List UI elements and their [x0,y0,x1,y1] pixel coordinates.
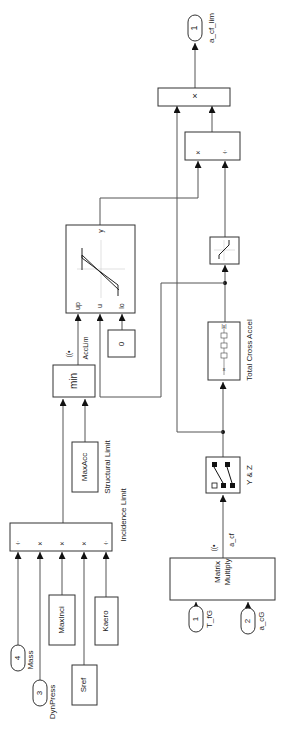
multiply-icon: × [82,539,87,548]
incidence-limit-label: Incidence Limit [119,488,128,542]
saturation-block[interactable] [210,237,239,264]
multiply-icon: × [192,91,197,101]
port-lo-label: lo [118,303,125,309]
incidence-limit-block[interactable]: ÷ × × × ÷ Incidence Limit [10,488,128,551]
inport-label: a_cG [257,611,266,630]
constant-value: MaxAcc [80,453,89,481]
min-label: min [68,373,79,389]
matrix-multiply-line1: Matrix [213,561,222,583]
port-y-label: y [97,229,105,233]
constant-value: Sref [79,677,88,692]
divide-icon: ÷ [223,148,228,157]
constant-sref-block[interactable]: Sref [72,665,97,705]
port-up-label: up [74,302,82,310]
constant-kaero-block[interactable]: Kaero [95,597,118,645]
multiply-icon: × [38,539,43,548]
inport-number: 4 [13,655,22,660]
simulink-diagram: 1 a_cf_lim × × ÷ up u lo y 0 min [0,0,287,732]
divide-icon: ÷ [104,539,109,548]
constant-value: Kaero [101,610,110,632]
svg-text:|x|: |x| [221,323,226,329]
inport-t-fg[interactable]: 1 T_fG [189,606,214,632]
inport-label: Mass [26,650,35,669]
inport-label: T_fG [205,610,214,628]
inport-number: 1 [191,616,200,621]
selector-label: Y & Z [245,465,254,485]
matrix-multiply-line2: Multiply [223,558,232,585]
final-product-block[interactable]: × [158,88,230,106]
divide-block[interactable]: × ÷ [185,132,240,160]
total-cross-accel-block[interactable]: x |x| Total Cross Accel [208,319,254,381]
inport-mass[interactable]: 4 Mass [11,645,35,671]
inport-dynpress[interactable]: 3 DynPress [33,680,57,719]
signal-logging-icon: ((• [210,544,218,552]
signal-label-acclim: AccLim [82,336,89,359]
min-block[interactable]: min [53,365,95,397]
signal-label-a-cf: a_cf [228,533,236,546]
divide-icon: ÷ [16,539,21,548]
constant-value: 0 [117,341,126,346]
port-u-label: u [96,304,103,308]
multiply-icon: × [196,148,201,157]
inport-number: 2 [243,618,252,623]
outport-a-cf-lim[interactable]: 1 a_cf_lim [188,13,216,43]
inport-a-cg[interactable]: 2 a_cG [241,608,266,634]
saturation-dynamic-block[interactable]: up u lo y [66,225,135,313]
inport-label: DynPress [48,685,57,720]
selector-y-z-block[interactable]: Y & Z [206,457,254,493]
constant-maxinci-block[interactable]: MaxInci [49,595,75,645]
outport-number: 1 [189,25,199,30]
total-cross-accel-label: Total Cross Accel [245,319,254,381]
multiply-icon: × [60,539,65,548]
constant-value: MaxInci [57,606,66,634]
inport-number: 3 [35,690,44,695]
constant-zero-block[interactable]: 0 [108,330,135,357]
signal-logging-icon: ((• [65,350,73,358]
structural-limit-label: Structural Limit [103,440,112,494]
signal-acclim: ((• AccLim [65,336,89,359]
matrix-multiply-block[interactable]: Matrix Multiply [170,558,275,600]
outport-label: a_cf_lim [207,13,216,43]
constant-maxacc-block[interactable]: MaxAcc Structural Limit [72,440,112,494]
